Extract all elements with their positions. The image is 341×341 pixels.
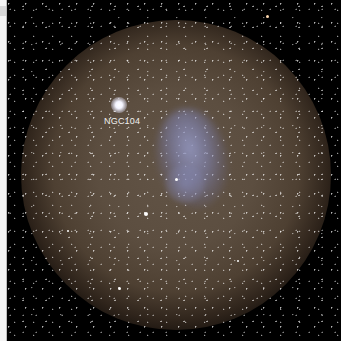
ngc104-label: NGC104 [104,116,140,126]
bright-star [175,178,178,181]
bright-star [118,287,121,290]
astronomy-photo: NGC104 [7,0,341,341]
small-magellanic-cloud-core [165,165,205,203]
bright-star [237,260,239,262]
bright-star [266,15,269,18]
bright-star [67,230,69,232]
ngc104-star-cluster [111,97,127,113]
panel-tab [0,6,6,16]
left-panel-edge [0,0,7,341]
bright-star [144,212,148,216]
